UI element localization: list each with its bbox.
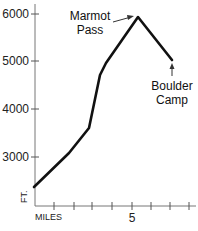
elevation-chart: 6000 5000 4000 3000 FT. MILES 5 Marmot P… [0,0,198,231]
marmot-pass-label-line2: Pass [77,23,104,37]
y-tick-label-4000: 4000 [2,102,29,116]
y-axis-title: FT. [19,191,29,204]
boulder-camp-label-line1: Boulder [151,79,192,93]
y-tick-label-5000: 5000 [2,54,29,68]
marmot-pass-arrow-icon [113,15,134,22]
elevation-line [34,17,172,187]
x-tick-label-5: 5 [129,211,136,225]
y-tick-label-3000: 3000 [2,150,29,164]
x-axis-title: MILES [35,212,62,222]
y-tick-label-6000: 6000 [2,7,29,21]
marmot-pass-label-line1: Marmot [70,9,111,23]
boulder-camp-label-line2: Camp [156,93,188,107]
boulder-camp-arrow-icon [170,63,175,76]
